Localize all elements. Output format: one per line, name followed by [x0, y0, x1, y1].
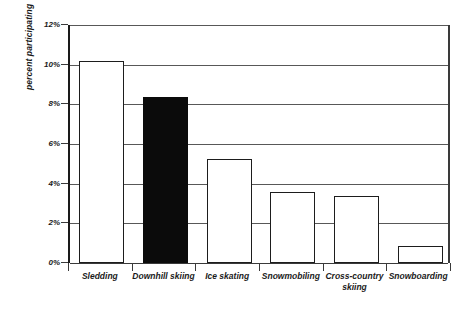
x-label-snowboarding: Snowboarding: [386, 271, 450, 282]
bar-snowmobiling: [270, 192, 315, 263]
gridline-8pct: [70, 104, 448, 105]
x-tick-mark: [259, 263, 260, 271]
bar-snowboarding: [398, 246, 443, 263]
x-label-cross-country-skiing: Cross-country skiing: [323, 271, 387, 292]
y-tick-label: 6%: [38, 138, 60, 150]
gridline-4pct: [70, 184, 448, 185]
y-tick-label: 4%: [38, 178, 60, 190]
y-tick-2pct: 2%: [0, 217, 68, 229]
y-tick-0pct: 0%: [0, 257, 68, 269]
bar-sledding: [79, 61, 124, 263]
x-label-ice-skating: Ice skating: [195, 271, 259, 282]
y-tick-mark: [61, 143, 68, 144]
y-tick-4pct: 4%: [0, 178, 68, 190]
plot-area: [68, 25, 450, 263]
y-tick-mark: [61, 262, 68, 263]
gridline-12pct: [70, 25, 448, 26]
y-tick-mark: [61, 103, 68, 104]
gridline-6pct: [70, 144, 448, 145]
x-tick-mark: [195, 263, 196, 271]
y-tick-mark: [61, 183, 68, 184]
y-tick-8pct: 8%: [0, 98, 68, 110]
y-tick-mark: [61, 24, 68, 25]
y-tick-mark: [61, 222, 68, 223]
gridline-2pct: [70, 223, 448, 224]
bar-ice-skating: [207, 159, 252, 263]
x-tick-mark: [386, 263, 387, 271]
x-tick-mark: [132, 263, 133, 271]
y-tick-12pct: 12%: [0, 19, 68, 31]
bar-cross-country-skiing: [334, 196, 379, 263]
y-tick-label: 10%: [38, 59, 60, 71]
y-axis-title: percent participating: [22, 0, 36, 90]
y-tick-label: 0%: [38, 257, 60, 269]
y-tick-10pct: 10%: [0, 59, 68, 71]
x-tick-mark: [68, 263, 69, 271]
bar-chart: percent participating 0%2%4%6%8%10%12% S…: [0, 0, 472, 310]
bar-downhill-skiing: [143, 97, 188, 263]
gridline-10pct: [70, 65, 448, 66]
x-label-snowmobiling: Snowmobiling: [259, 271, 323, 282]
y-tick-label: 12%: [38, 19, 60, 31]
x-label-sledding: Sledding: [68, 271, 132, 282]
x-tick-mark: [323, 263, 324, 271]
x-label-downhill-skiing: Downhill skiing: [132, 271, 196, 282]
y-tick-6pct: 6%: [0, 138, 68, 150]
y-tick-label: 2%: [38, 217, 60, 229]
y-tick-label: 8%: [38, 98, 60, 110]
x-tick-mark: [450, 263, 451, 271]
y-tick-mark: [61, 64, 68, 65]
